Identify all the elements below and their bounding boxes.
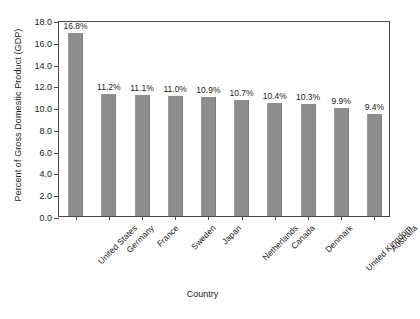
x-tick-mark (142, 216, 143, 220)
bar (367, 114, 382, 216)
x-tick-mark (109, 216, 110, 220)
y-tick-label: 12.0 (34, 82, 52, 92)
bar-value-label: 10.7% (230, 88, 254, 98)
bar-value-label: 16.8% (64, 21, 88, 31)
bar-slot: 10.9% (201, 22, 216, 216)
bar (201, 97, 216, 216)
bar (135, 95, 150, 216)
x-tick-mark (175, 216, 176, 220)
bar-slot: 10.7% (234, 22, 249, 216)
bar (301, 104, 316, 216)
bar-slot: 9.4% (367, 22, 382, 216)
bar (68, 33, 83, 216)
y-tick-label: 4.0 (39, 169, 52, 179)
y-tick-label: 10.0 (34, 104, 52, 114)
y-tick-mark (54, 66, 59, 67)
x-category-text: Japan (220, 223, 243, 246)
bar (267, 103, 282, 216)
y-tick-mark (54, 174, 59, 175)
y-tick-mark (54, 153, 59, 154)
x-tick-mark (374, 216, 375, 220)
bar-slot: 10.3% (301, 22, 316, 216)
bar-slot: 11.0% (168, 22, 183, 216)
bar-value-label: 10.9% (196, 85, 220, 95)
y-axis-title: Percent of Gross Domestic Product (GDP) (13, 15, 23, 215)
bar-slot: 11.2% (101, 22, 116, 216)
y-tick-label: 16.0 (34, 39, 52, 49)
x-tick-mark (341, 216, 342, 220)
bar (234, 100, 249, 217)
bar (101, 94, 116, 216)
plot-area: 0.02.04.06.08.010.012.014.016.018.0 16.8… (58, 21, 390, 217)
bar-value-label: 11.2% (97, 82, 120, 92)
x-tick-mark (208, 216, 209, 220)
x-tick-mark (275, 216, 276, 220)
x-category-label: France (155, 223, 181, 249)
y-tick-mark (54, 218, 59, 219)
bar-slot: 11.1% (135, 22, 150, 216)
x-axis-title: Country (0, 289, 405, 299)
bar (334, 108, 349, 216)
y-tick-mark (54, 131, 59, 132)
y-tick-label: 8.0 (39, 126, 52, 136)
x-tick-mark (76, 216, 77, 220)
bar-value-label: 9.4% (365, 102, 384, 112)
y-tick-mark (54, 44, 59, 45)
x-category-label: Japan (220, 223, 243, 246)
bar-slot: 10.4% (267, 22, 282, 216)
bar (168, 96, 183, 216)
y-tick-mark (54, 22, 59, 23)
y-tick-mark (54, 196, 59, 197)
y-tick-mark (54, 87, 59, 88)
bar-slot: 16.8% (68, 22, 83, 216)
y-tick-label: 6.0 (39, 148, 52, 158)
bar-slot: 9.9% (334, 22, 349, 216)
x-tick-mark (242, 216, 243, 220)
x-category-text: France (155, 223, 181, 249)
x-category-label: Denmark (323, 223, 354, 254)
x-category-label: Sweden (189, 223, 218, 252)
x-category-text: Denmark (323, 223, 354, 254)
x-tick-mark (308, 216, 309, 220)
y-tick-label: 14.0 (34, 61, 52, 71)
y-tick-label: 0.0 (39, 213, 52, 223)
y-tick-label: 2.0 (39, 191, 52, 201)
bar-value-label: 11.0% (163, 84, 186, 94)
bar-value-label: 11.1% (130, 83, 153, 93)
bar-value-label: 10.3% (296, 92, 320, 102)
y-tick-mark (54, 109, 59, 110)
x-category-text: Sweden (189, 223, 218, 252)
bar-value-label: 10.4% (263, 91, 287, 101)
y-tick-label: 18.0 (34, 17, 52, 27)
bar-value-label: 9.9% (332, 96, 351, 106)
